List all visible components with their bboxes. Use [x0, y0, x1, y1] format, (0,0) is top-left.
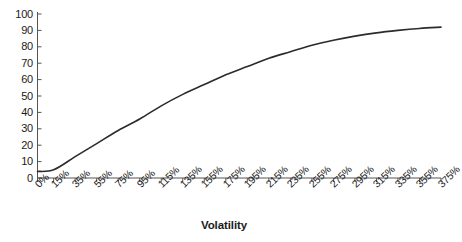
x-tick-label: 95% — [135, 168, 157, 190]
x-tick-label: 55% — [92, 168, 114, 190]
x-tick-label: 195% — [242, 164, 268, 190]
x-tick-label: 275% — [328, 164, 354, 190]
x-tick-label: 315% — [371, 164, 397, 190]
x-tick-label: 235% — [285, 164, 311, 190]
x-tick-label: 295% — [350, 164, 376, 190]
x-tick-label: 75% — [113, 168, 135, 190]
x-tick-label: 355% — [414, 164, 440, 190]
x-tick-label: 155% — [199, 164, 225, 190]
x-tick-label: 135% — [178, 164, 204, 190]
x-tick-label: 215% — [264, 164, 290, 190]
x-tick-label: 35% — [70, 168, 92, 190]
x-tick-label: 175% — [221, 164, 247, 190]
x-tick-label: 15% — [49, 168, 71, 190]
x-axis-title: Volatility — [0, 219, 448, 231]
x-tick-label: 375% — [436, 164, 462, 190]
x-tick-label: 115% — [156, 164, 181, 189]
x-tick-label: 335% — [393, 164, 419, 190]
x-tick-label: 255% — [307, 164, 333, 190]
